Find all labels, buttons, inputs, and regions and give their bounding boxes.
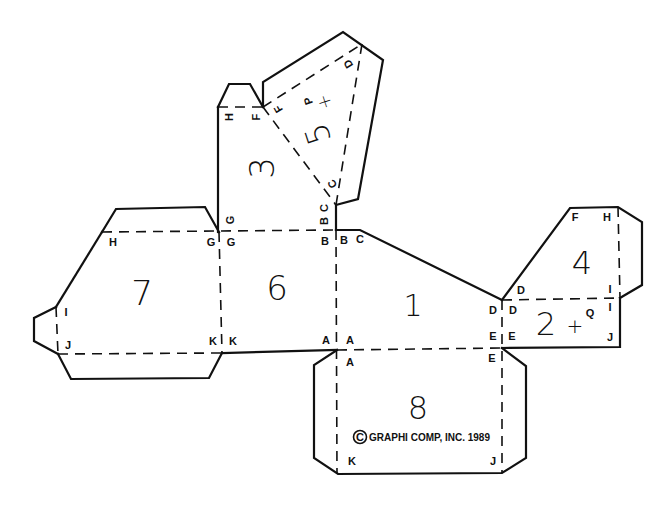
panel-5-number: 5 <box>297 118 339 149</box>
panel-2-plus-marker: + <box>567 314 584 338</box>
vertex-label-a: A <box>346 334 354 346</box>
fold-g-k <box>219 232 222 353</box>
panel-7-left-edge <box>56 232 102 307</box>
fold-b-a <box>336 230 337 474</box>
panel-6-bottom-edge <box>222 350 337 353</box>
vertex-label-f: F <box>271 103 285 115</box>
fold-i-j <box>56 307 58 354</box>
copyright-notice: C GRAPHI COMP, INC. 1989 <box>354 431 491 444</box>
vertex-label-f: F <box>250 113 262 120</box>
vertex-label-j: J <box>65 339 71 351</box>
panel-7-side-tab <box>34 307 58 354</box>
vertex-label-h: H <box>223 113 235 121</box>
vertex-label-c: C <box>318 204 330 212</box>
vertex-label-k: K <box>209 335 217 347</box>
paper-net-diagram: 7 6 3 5 1 2 4 8 + Q + P H G I J K G K B … <box>0 0 648 507</box>
vertex-label-a: A <box>346 356 354 368</box>
vertex-label-g: G <box>227 236 236 248</box>
copyright-text: GRAPHI COMP, INC. 1989 <box>369 432 490 443</box>
vertex-label-j: J <box>607 331 613 343</box>
fold-h-i <box>618 207 620 298</box>
vertex-label-i: I <box>608 301 611 313</box>
copyright-c: C <box>356 431 364 443</box>
vertex-label-e: E <box>508 330 515 342</box>
vertex-label-h: H <box>603 211 611 223</box>
panel-2-q-label: Q <box>586 307 595 319</box>
vertex-label-i: I <box>608 283 611 295</box>
vertex-label-g: G <box>224 216 236 225</box>
fold-j-k <box>58 353 222 354</box>
panel-3-number: 3 <box>242 157 282 179</box>
panel-5-p-label: P <box>301 96 315 107</box>
vertex-label-c: C <box>356 233 364 245</box>
panel-5-plus-marker: + <box>312 92 337 113</box>
vertex-label-g: G <box>207 236 216 248</box>
vertex-label-d: D <box>489 304 497 316</box>
vertex-label-e: E <box>489 330 496 342</box>
vertex-label-i: I <box>64 306 67 318</box>
vertex-label-b: B <box>318 217 330 225</box>
panel-4-number: 4 <box>572 244 592 282</box>
vertex-label-c: C <box>325 178 339 191</box>
vertex-label-d: D <box>341 58 355 71</box>
vertex-label-f: F <box>572 211 579 223</box>
fold-d-i <box>502 298 620 300</box>
fold-a-e <box>337 348 502 350</box>
panel-6-number: 6 <box>266 268 288 308</box>
vertex-label-d: D <box>517 284 525 296</box>
vertex-label-k: K <box>348 455 356 467</box>
vertex-label-a: A <box>322 334 330 346</box>
vertex-label-k: K <box>229 335 237 347</box>
vertex-label-j: J <box>490 455 496 467</box>
panel-7-number: 7 <box>131 273 153 313</box>
vertex-label-d: D <box>509 304 517 316</box>
panel-8-number: 8 <box>408 389 428 427</box>
vertex-label-b: B <box>340 234 348 246</box>
panel-2-number: 2 <box>536 305 556 343</box>
vertex-label-b: B <box>321 235 329 247</box>
vertex-label-e: E <box>488 352 495 364</box>
panel-2-outline <box>502 298 620 348</box>
alignment-markers: + Q + P <box>301 92 595 338</box>
vertex-label-h: H <box>109 236 117 248</box>
fold-lines <box>56 44 620 474</box>
cut-lines <box>34 32 642 474</box>
panel-7-top-tab <box>102 207 219 232</box>
panel-1-number: 1 <box>403 288 422 323</box>
panel-7-bottom-tab <box>58 353 222 379</box>
panel-3-top-tab <box>218 84 263 107</box>
